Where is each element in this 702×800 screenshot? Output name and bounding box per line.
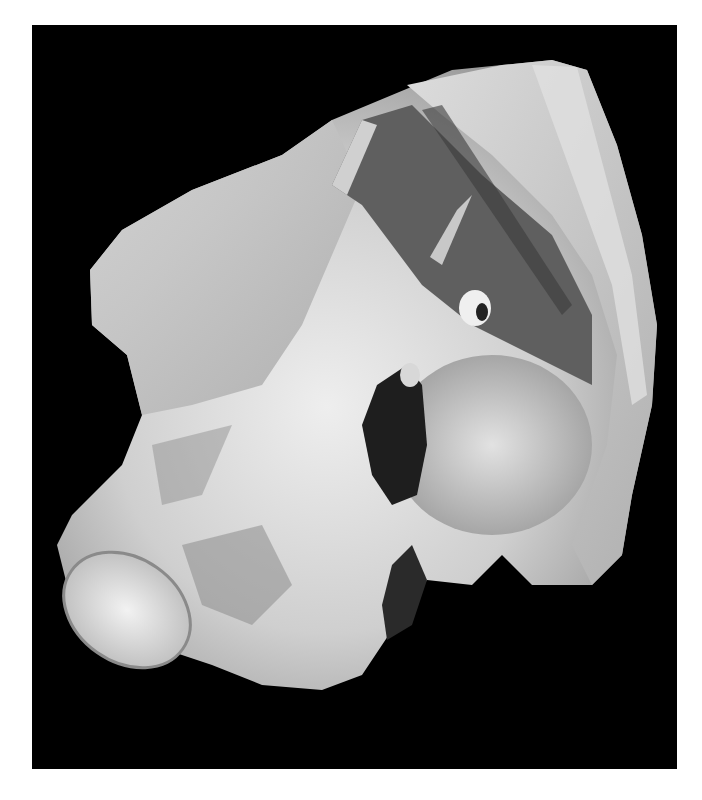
vessel-lumen	[476, 303, 488, 321]
photo-frame	[32, 25, 677, 769]
vessel-stump	[400, 363, 420, 387]
specimen-photo	[32, 25, 677, 769]
